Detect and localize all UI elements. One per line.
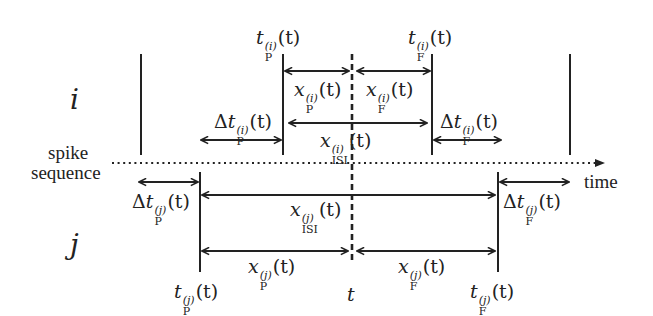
label-j-xP: x(j)P(t)	[248, 257, 295, 292]
label-i-xISI: x(i)ISI(t)	[320, 131, 371, 166]
label-j-tP: t(j)P(t)	[174, 282, 218, 316]
label-i-dtP: Δt(i)P(t)	[214, 112, 272, 147]
spikes-j	[200, 172, 498, 272]
label-j-xISI: x(j)ISI(t)	[290, 200, 341, 235]
axis-label-spike: spike	[48, 143, 88, 162]
label-i-xP: x(i)P(t)	[294, 80, 341, 115]
label-i-tF: t(i)F(t)	[408, 28, 452, 63]
axis-label-time: time	[584, 172, 618, 191]
row-label-i: i	[70, 86, 79, 114]
label-j-dtF: Δt(j)F(t)	[503, 192, 561, 227]
label-j-xF: x(j)F(t)	[398, 257, 445, 292]
label-i-tP: t(i)P(t)	[256, 28, 300, 63]
axis-label-sequence: sequence	[31, 163, 101, 182]
row-label-j: j	[70, 231, 79, 259]
current-time-label: t	[347, 285, 355, 304]
label-j-tF: t(j)F(t)	[470, 282, 514, 316]
label-i-xF: x(i)F(t)	[366, 80, 413, 115]
label-j-dtP: Δt(j)P(t)	[132, 192, 190, 227]
label-i-dtF: Δt(i)F(t)	[440, 112, 498, 147]
